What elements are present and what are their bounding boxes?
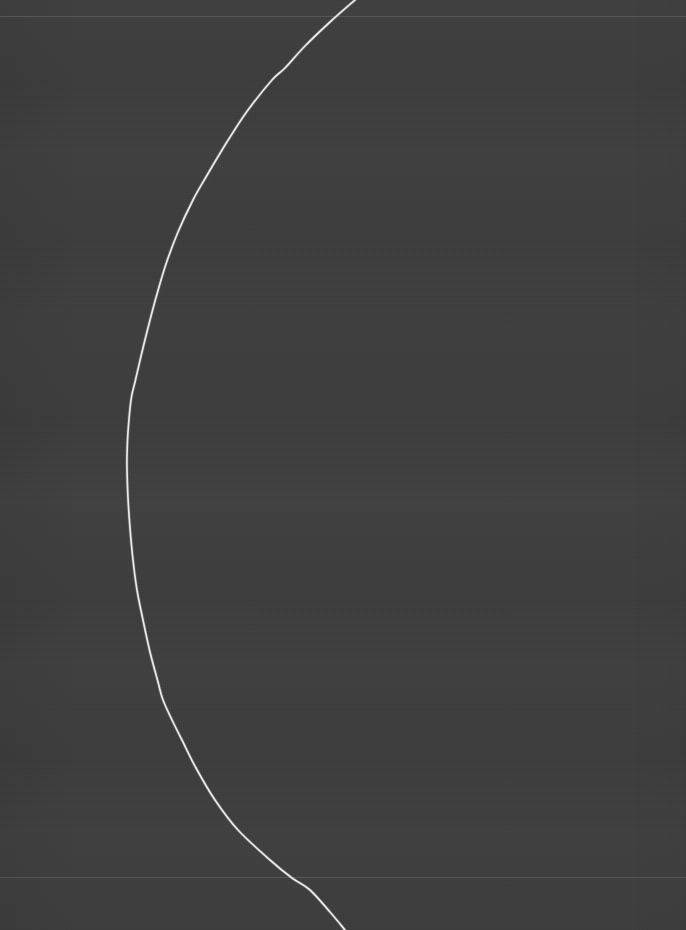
gridline-layer [0, 16, 686, 877]
series-line-curve-1 [127, 0, 355, 930]
plot-svg [0, 0, 686, 930]
series-layer [127, 0, 355, 930]
plot-canvas [0, 0, 686, 930]
series-glow-0 [127, 0, 355, 930]
